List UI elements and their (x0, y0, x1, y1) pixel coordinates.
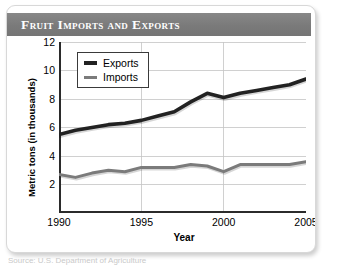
x-tick-label: 1990 (35, 216, 83, 228)
x-axis-title: Year (59, 232, 309, 243)
legend-label-exports: Exports (103, 57, 139, 69)
legend-label-imports: Imports (103, 71, 138, 83)
legend-line-imports-icon (84, 76, 97, 79)
y-tick-label: 8 (29, 94, 55, 105)
y-tick-label: 12 (29, 37, 55, 48)
legend-item-exports: Exports (84, 56, 139, 70)
chart-card: Fruit Imports and Exports Metric tons (i… (6, 5, 316, 253)
y-axis-tick-labels: 24681012 (27, 42, 55, 213)
chart-title-bar: Fruit Imports and Exports (7, 13, 311, 36)
page-title: Fruit Imports and Exports (21, 16, 180, 33)
y-tick-label: 2 (29, 179, 55, 190)
source-attribution: Source: U.S. Department of Agriculture (8, 256, 146, 265)
chart-legend: Exports Imports (77, 52, 149, 88)
x-tick-label: 2005 (282, 216, 316, 228)
legend-line-exports-icon (84, 61, 97, 65)
chart-plot-region: Metric tons (in thousands) Year 24681012… (7, 36, 316, 253)
y-tick-label: 4 (29, 151, 55, 162)
x-tick-label: 1995 (117, 216, 165, 228)
y-tick-label: 10 (29, 65, 55, 76)
legend-item-imports: Imports (84, 70, 139, 84)
plot-area: Exports Imports (59, 42, 306, 213)
x-tick-label: 2000 (200, 216, 248, 228)
x-axis-tick-labels: 1990199520002005 (59, 216, 316, 232)
y-tick-label: 6 (29, 122, 55, 133)
